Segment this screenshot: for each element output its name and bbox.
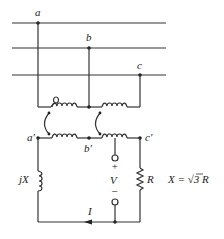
label-b-prime: b′ <box>84 142 93 154</box>
polarity-dot-1a <box>48 112 51 115</box>
current-arrow-icon <box>84 220 92 225</box>
secondary-row <box>36 134 142 140</box>
label-r: R <box>146 173 154 185</box>
coupling-arc-2-icon <box>96 113 101 134</box>
eq-lhs: X = <box>167 173 188 185</box>
label-a: a <box>35 6 41 18</box>
inductor-jx-icon <box>38 171 42 191</box>
secondary-coil-2-icon <box>102 134 127 138</box>
primary-coil-1-icon <box>52 103 77 107</box>
v-minus-terminal-icon <box>112 199 118 205</box>
node-b-prime <box>87 136 91 140</box>
svg-text:X = √3 R: X = √3 R <box>167 173 209 185</box>
label-i: I <box>87 205 93 217</box>
primary-coil-2-icon <box>102 103 127 107</box>
label-b: b <box>86 31 92 43</box>
eq-sqrt: √3 <box>188 173 200 185</box>
equation: X = √3 R <box>167 173 209 185</box>
label-jx: jX <box>17 173 30 185</box>
polarity-dot-1b <box>48 133 51 136</box>
label-a-prime: a′ <box>27 131 36 143</box>
label-v-plus: + <box>111 160 118 172</box>
polarity-dot-2a <box>99 112 102 115</box>
secondary-coil-1-icon <box>52 134 77 138</box>
label-c-prime: c′ <box>145 131 153 143</box>
coupling-arc-1-icon <box>45 113 50 134</box>
label-c: c <box>137 59 142 71</box>
polarity-dot-2b <box>99 133 102 136</box>
label-v-minus: − <box>111 185 118 197</box>
resistor-r-icon <box>137 168 143 190</box>
circuit-diagram: a b c a′ b′ c′ + V − jX R I X = √3 R <box>0 0 224 239</box>
eq-rhs: R <box>199 173 209 185</box>
